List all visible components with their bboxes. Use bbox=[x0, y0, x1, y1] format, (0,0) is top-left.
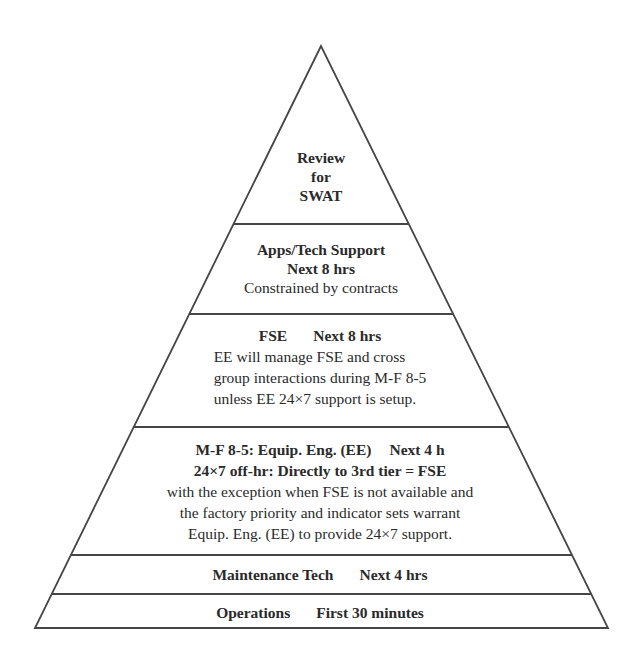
fse-body: EE will manage FSE and cross group inter… bbox=[214, 346, 427, 409]
operations-title: Operations bbox=[216, 604, 290, 621]
tier-apps-tech-support: Apps/Tech Support Next 8 hrs Constrained… bbox=[196, 240, 446, 297]
tier-operations: OperationsFirst 30 minutes bbox=[120, 603, 520, 622]
maintenance-heading: Maintenance TechNext 4 hrs bbox=[120, 565, 520, 584]
maintenance-time: Next 4 hrs bbox=[359, 566, 427, 583]
apps-title: Apps/Tech Support bbox=[196, 240, 446, 259]
fse-body-line-3: unless EE 24×7 support is setup. bbox=[214, 388, 427, 409]
operations-time: First 30 minutes bbox=[316, 604, 424, 621]
ee-subtitle: 24×7 off-hr: Directly to 3rd tier = FSE bbox=[110, 460, 530, 481]
fse-body-line-1: EE will manage FSE and cross bbox=[214, 346, 427, 367]
swat-line-1: Review bbox=[221, 148, 421, 167]
ee-heading: M-F 8-5: Equip. Eng. (EE)Next 4 h bbox=[110, 439, 530, 460]
ee-title: M-F 8-5: Equip. Eng. (EE) bbox=[195, 441, 371, 458]
fse-title: FSE bbox=[259, 327, 287, 344]
ee-body-line-2: the factory priority and indicator sets … bbox=[110, 502, 530, 523]
tier-equip-eng: M-F 8-5: Equip. Eng. (EE)Next 4 h 24×7 o… bbox=[110, 439, 530, 544]
fse-body-line-2: group interactions during M-F 8-5 bbox=[214, 367, 427, 388]
swat-line-3: SWAT bbox=[221, 186, 421, 205]
maintenance-title: Maintenance Tech bbox=[212, 566, 333, 583]
apps-note: Constrained by contracts bbox=[196, 278, 446, 297]
fse-time: Next 8 hrs bbox=[313, 327, 381, 344]
tier-maintenance-tech: Maintenance TechNext 4 hrs bbox=[120, 565, 520, 584]
apps-time: Next 8 hrs bbox=[196, 259, 446, 278]
swat-line-2: for bbox=[221, 167, 421, 186]
fse-heading: FSENext 8 hrs bbox=[160, 326, 480, 345]
operations-heading: OperationsFirst 30 minutes bbox=[120, 603, 520, 622]
ee-body-line-1: with the exception when FSE is not avail… bbox=[110, 481, 530, 502]
ee-body-line-3: Equip. Eng. (EE) to provide 24×7 support… bbox=[110, 523, 530, 544]
tier-fse: FSENext 8 hrs EE will manage FSE and cro… bbox=[160, 326, 480, 409]
tier-swat: Review for SWAT bbox=[221, 148, 421, 205]
ee-time: Next 4 h bbox=[389, 441, 444, 458]
